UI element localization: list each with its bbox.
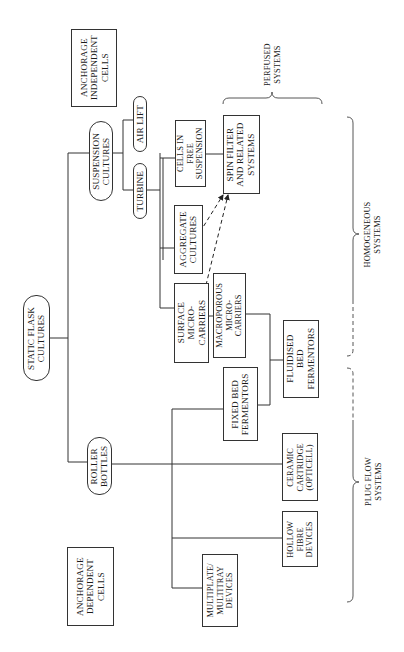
multiplate-multitray-devices-box: MULTIPLATE/ MULTITRAY DEVICES [202,554,238,627]
perfused-systems-label: PERFUSED SYSTEMS [258,40,286,90]
node-label: SUSPENSION CULTURES [91,133,112,190]
node-label: MACROPOROUS MICRO- CARRIERS [215,283,244,348]
perfused-brace [223,92,322,104]
turbine-node: TURBINE [133,163,147,219]
surface-microcarriers-box: SURFACE MICRO- CARRIERS [174,283,209,363]
group-label: PLUG FLOW SYSTEMS [363,458,382,507]
node-label: TURBINE [135,171,145,212]
node-label: CELLS IN FREE SUSPENSION [176,128,205,180]
ceramic-cartridge-box: CERAMIC CARTRIDGE (OPTICELL) [282,433,318,501]
air-lift-node: AIR LIFT [133,96,147,152]
macroporous-microcarriers-box: MACROPOROUS MICRO- CARRIERS [213,273,246,358]
roller-bottles-node: ROLLER BOTTLES [87,437,112,495]
anchorage-dependent-cells-box: ANCHORAGE DEPENDENT CELLS [67,547,114,626]
homogeneous-systems-label: HOMOGENEOUS SYSTEMS [359,190,387,280]
suspension-cultures-node: SUSPENSION CULTURES [89,121,113,201]
node-label: AGGREGATE CULTURES [178,211,199,267]
group-label: HOMOGENEOUS SYSTEMS [363,202,382,268]
anchorage-independent-cells-box: ANCHORAGE INDEPENDENT CELLS [71,29,117,107]
node-label: CERAMIC CARTRIDGE (OPTICELL) [286,443,315,491]
homogeneous-brace [347,117,359,300]
node-label: ROLLER BOTTLES [89,445,110,486]
spin-filter-box: SPIN FILTER AND RELATED SYSTEMS [223,115,260,194]
node-label: FLUIDISED BED FERMENTORS [285,328,316,390]
fluidised-bed-fermentors-box: FLUIDISED BED FERMENTORS [283,320,319,398]
aggregate-cultures-box: AGGREGATE CULTURES [174,205,203,274]
node-label: HOLLOW FIBRE DEVICES [286,521,315,558]
fixed-bed-fermentors-box: FIXED BED FERMENTORS [223,367,258,441]
hollow-fibre-devices-box: HOLLOW FIBRE DEVICES [282,511,318,567]
node-label: FIXED BED FERMENTORS [230,373,251,435]
node-label: ANCHORAGE DEPENDENT CELLS [75,557,106,616]
node-label: ANCHORAGE INDEPENDENT CELLS [78,36,109,101]
cells-in-free-suspension-box: CELLS IN FREE SUSPENSION [175,120,206,187]
node-label: MULTIPLATE/ MULTITRAY DEVICES [206,563,235,617]
plug-flow-systems-label: PLUG FLOW SYSTEMS [359,450,387,514]
static-flask-cultures-node: STATIC FLASK CULTURES [23,295,50,381]
node-label: SPIN FILTER AND RELATED SYSTEMS [226,122,257,186]
node-label: AIR LIFT [135,105,145,143]
group-label: PERFUSED SYSTEMS [262,44,281,87]
plug-flow-brace [347,420,359,602]
node-label: SURFACE MICRO- CARRIERS [176,300,207,346]
node-label: STATIC FLASK CULTURES [26,307,47,370]
